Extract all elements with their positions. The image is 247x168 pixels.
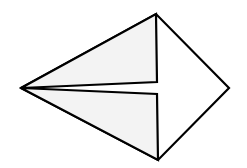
kite-fold-diagram <box>0 0 247 168</box>
